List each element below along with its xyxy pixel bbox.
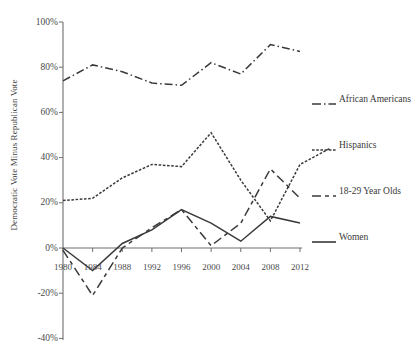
data-series [63,45,330,296]
legend-label: Women [339,232,368,242]
legend-item-hispanics: Hispanics [312,142,420,188]
legend-key-dotted-icon [312,146,336,154]
x-tick-label: 1980 [54,262,72,272]
x-tick-label: 1992 [143,262,161,272]
x-tick-label: 2012 [291,262,309,272]
legend-label: African Americans [339,94,411,104]
legend-item-18-29-year-olds: 18-29 Year Olds [312,188,420,234]
legend-item-women: Women [312,234,420,280]
x-tick-label: 2004 [232,262,250,272]
series-line-hispanics [63,133,330,221]
legend-key-solid-icon [312,238,336,246]
legend-key-dashed-icon [312,192,336,200]
series-line-african-americans [63,45,300,86]
legend-item-african-americans: African Americans [312,96,420,142]
legend-key-dash-dot-icon [312,100,336,108]
series-line-18-29-year-olds [63,169,300,296]
x-tick-label: 2000 [202,262,220,272]
legend-label: Hispanics [339,140,376,150]
x-tick-label: 2008 [261,262,279,272]
chart-legend: African Americans Hispanics 18-29 Year O… [312,96,420,280]
legend-label: 18-29 Year Olds [339,186,401,196]
x-tick-label: 1984 [84,262,102,272]
x-tick-label: 1988 [113,262,131,272]
x-tick-label: 1996 [173,262,191,272]
